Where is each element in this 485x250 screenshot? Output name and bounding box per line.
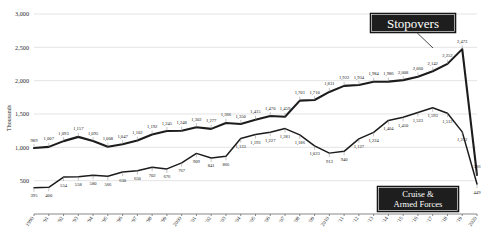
x-axis-tick-label: '14: [381, 215, 390, 224]
data-point-label: 554: [60, 183, 68, 188]
data-point-label: 1,710: [309, 90, 320, 96]
x-axis-tick-label: '11: [337, 215, 346, 224]
data-point-label: 1,701: [295, 90, 306, 96]
data-point-label: 1,227: [265, 138, 276, 144]
data-point-label: 2,473: [457, 39, 468, 45]
data-point-label: 1,224: [368, 138, 379, 144]
data-point-label: 1,523: [413, 118, 424, 124]
data-point-label: 1,281: [280, 134, 291, 140]
data-point-label: 566: [104, 182, 112, 187]
x-axis-tick-label: '99: [159, 215, 168, 224]
data-point-label: 1,512: [442, 119, 453, 125]
chart-container: 3,0002,5002,0001,5001,000500Thousands199…: [0, 0, 485, 250]
x-axis-tick-label: '92: [56, 215, 65, 224]
data-point-label: 1,831: [324, 81, 335, 87]
cruise-callout-label-line2: Armed Forces: [394, 199, 444, 209]
data-point-label: 913: [326, 159, 334, 164]
data-point-label: 1,102: [132, 130, 143, 136]
data-point-label: 909: [193, 159, 201, 164]
x-axis-tick-label: '03: [218, 215, 227, 224]
data-point-label: 1,186: [295, 140, 306, 146]
data-point-label: 395: [31, 193, 39, 198]
data-point-label: 1,095: [88, 131, 99, 137]
data-point-label: 1,302: [191, 117, 202, 123]
y-axis-title: Thousands: [6, 104, 12, 131]
x-axis-tick-label: '01: [189, 215, 198, 224]
data-point-label: 650: [134, 176, 142, 181]
y-axis-tick-label: 500: [20, 177, 29, 184]
x-axis-tick-label: '02: [204, 215, 213, 224]
data-point-label: 1,934: [354, 75, 365, 81]
x-axis-tick-label: 1990: [24, 215, 35, 227]
x-axis-tick-label: '07: [277, 215, 286, 224]
cruise-callout-label-line1: Cruise &: [402, 189, 434, 199]
line-chart: 3,0002,5002,0001,5001,000500Thousands199…: [0, 0, 485, 250]
x-axis-tick-label: '16: [410, 215, 419, 224]
data-point-label: 2,060: [413, 66, 424, 72]
data-point-label: 586: [474, 164, 482, 169]
x-axis-tick-label: '06: [263, 215, 272, 224]
data-point-label: 2,142: [428, 61, 439, 67]
y-axis-tick-label: 2,500: [15, 44, 29, 51]
data-point-label: 1,232: [457, 137, 468, 143]
data-point-label: 1,984: [368, 71, 379, 77]
x-axis-tick-label: '12: [351, 215, 360, 224]
x-axis-tick-label: '93: [71, 215, 80, 224]
y-axis-tick-label: 3,000: [15, 10, 29, 17]
x-axis-tick-label: '95: [100, 215, 109, 224]
data-point-label: 1,350: [236, 114, 247, 120]
data-point-label: 1,986: [383, 71, 394, 77]
x-axis-tick-label: '97: [130, 215, 139, 224]
x-axis-tick-label: '13: [366, 215, 375, 224]
x-axis-tick-label: '05: [248, 215, 257, 224]
x-axis-tick-label: '04: [233, 215, 242, 224]
data-point-label: 1,245: [162, 121, 173, 127]
data-point-label: 841: [208, 163, 216, 168]
x-axis-tick-label: 2000: [171, 215, 182, 227]
data-point-label: 630: [119, 178, 127, 183]
data-point-label: 558: [75, 182, 83, 187]
y-axis-tick-label: 1,000: [15, 144, 29, 151]
data-point-label: 1,192: [147, 124, 158, 130]
data-point-label: 1,450: [398, 123, 409, 129]
x-axis-tick-label: '15: [395, 215, 404, 224]
data-point-label: 1,366: [221, 112, 232, 118]
x-axis-tick-label: '17: [425, 215, 434, 224]
data-point-label: 676: [163, 174, 171, 179]
data-point-label: 400: [45, 193, 53, 198]
x-axis-tick-label: '19: [455, 215, 464, 224]
data-point-label: 702: [149, 173, 157, 178]
data-point-label: 1,593: [428, 113, 439, 119]
x-axis-tick-label: '96: [115, 215, 124, 224]
x-axis-tick-label: 2010: [319, 215, 330, 227]
data-point-label: 1,157: [73, 126, 84, 132]
data-point-label: 1,277: [206, 118, 217, 124]
data-point-label: 580: [90, 181, 98, 186]
x-axis-tick-label: '98: [144, 215, 153, 224]
data-point-label: 1,133: [236, 144, 247, 150]
x-axis-tick-label: '18: [440, 215, 449, 224]
data-point-label: 1,470: [265, 106, 276, 112]
x-axis-tick-label: '94: [85, 215, 94, 224]
data-point-label: 866: [223, 162, 231, 167]
data-point-label: 940: [341, 157, 349, 162]
data-point-label: 1,248: [176, 120, 187, 126]
data-point-label: 767: [178, 168, 186, 173]
x-axis-tick-label: '09: [307, 215, 316, 224]
data-point-label: 1,007: [44, 136, 55, 142]
data-point-label: 1,023: [309, 151, 320, 157]
data-point-label: 1,127: [354, 144, 365, 150]
data-point-label: 989: [31, 138, 39, 143]
x-axis-tick-label: '08: [292, 215, 301, 224]
data-point-label: 1,193: [250, 140, 261, 146]
data-point-label: 449: [474, 190, 482, 195]
x-axis-tick-label: 2020: [467, 215, 478, 227]
data-point-label: 2,008: [398, 70, 409, 76]
data-point-label: 1,093: [58, 131, 69, 137]
stopovers-callout-leader: [417, 33, 433, 48]
data-point-label: 1,404: [383, 126, 394, 132]
data-point-label: 1,047: [117, 134, 128, 140]
stopovers-callout-label: Stopovers: [387, 16, 439, 31]
x-axis-tick-label: '91: [41, 215, 50, 224]
y-axis-tick-label: 2,000: [15, 77, 29, 84]
